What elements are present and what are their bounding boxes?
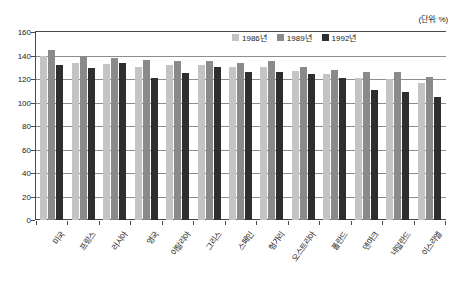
bar-group [351, 32, 382, 220]
bar [103, 64, 110, 220]
bar [300, 67, 307, 220]
bar-group [36, 32, 67, 220]
x-axis-tick-mark [162, 221, 163, 225]
bar [386, 79, 393, 220]
bar [418, 83, 425, 220]
bar [308, 74, 315, 220]
x-axis-tick-label: 이스라엘 [419, 229, 443, 257]
bar [135, 67, 142, 220]
bar [72, 63, 79, 220]
bar [182, 73, 189, 220]
bar [111, 58, 118, 220]
bar [434, 97, 441, 220]
legend-item: 1992년 [322, 32, 357, 43]
x-axis-tick-label: 미국 [49, 229, 66, 246]
bar [198, 65, 205, 220]
bar-group [67, 32, 98, 220]
legend-item: 1989년 [277, 32, 312, 43]
y-axis-tick-label: 20 [22, 192, 31, 201]
y-axis-tick-mark [31, 220, 35, 221]
bar [363, 72, 370, 220]
x-axis-tick-label: 프랑스 [77, 229, 98, 252]
x-axis-tick-mark [225, 221, 226, 225]
x-axis-tick-mark [445, 221, 446, 225]
bar [331, 70, 338, 220]
bars-layer [36, 32, 445, 220]
x-axis-tick-mark [319, 221, 320, 225]
y-axis-tick-label: 80 [22, 122, 31, 131]
bar [426, 77, 433, 220]
y-axis-tick-label: 120 [18, 75, 31, 84]
bar-group [414, 32, 445, 220]
x-axis-tick-label: 오스트리아 [289, 229, 317, 263]
x-axis-tick-label: 영국 [143, 229, 160, 246]
bar-chart: (단위: %) 020406080100120140160 미국프랑스러시아영국… [0, 0, 454, 287]
y-axis-tick-label: 60 [22, 145, 31, 154]
bar-group [193, 32, 224, 220]
bar [323, 74, 330, 220]
bar-group [319, 32, 350, 220]
x-axis-tick-mark [67, 221, 68, 225]
bar [402, 92, 409, 220]
bar [260, 67, 267, 220]
bar [80, 56, 87, 221]
legend-label: 1992년 [332, 32, 357, 43]
x-axis-tick-mark [351, 221, 352, 225]
x-axis-tick-label: 헝가리 [265, 229, 286, 252]
x-axis-tick-mark [414, 221, 415, 225]
bar [292, 71, 299, 220]
bar [206, 61, 213, 220]
x-axis-tick-mark [193, 221, 194, 225]
bar [48, 50, 55, 220]
bar-group [225, 32, 256, 220]
bar [166, 65, 173, 220]
x-axis-tick-label: 스페인 [234, 229, 255, 252]
bar [56, 65, 63, 220]
y-axis-tick-label: 40 [22, 169, 31, 178]
legend-swatch [277, 34, 284, 41]
bar-group [382, 32, 413, 220]
x-axis-tick-mark [130, 221, 131, 225]
x-axis: 미국프랑스러시아영국이탈리아그리스스페인헝가리오스트리아폴란드덴마크네덜란드이스… [36, 221, 445, 287]
bar [174, 61, 181, 220]
x-axis-tick-mark [288, 221, 289, 225]
bar [88, 68, 95, 220]
y-axis-tick-label: 160 [18, 28, 31, 37]
y-axis-tick-label: 100 [18, 98, 31, 107]
x-axis-tick-label: 러시아 [108, 229, 129, 252]
x-axis-tick-mark [256, 221, 257, 225]
bar-group [130, 32, 161, 220]
bar [394, 72, 401, 220]
legend: 1986년1989년1992년 [232, 32, 356, 43]
x-axis-tick-mark [36, 221, 37, 225]
legend-item: 1986년 [232, 32, 267, 43]
x-axis-tick-mark [99, 221, 100, 225]
bar [268, 61, 275, 220]
bar-group [288, 32, 319, 220]
y-axis-tick-label: 140 [18, 51, 31, 60]
bar-group [162, 32, 193, 220]
legend-label: 1989년 [287, 32, 312, 43]
bar [371, 90, 378, 220]
bar [276, 72, 283, 220]
x-axis-tick-label: 폴란드 [328, 229, 349, 252]
y-axis: 020406080100120140160 [0, 31, 35, 221]
bar-group [256, 32, 287, 220]
x-axis-tick-label: 네덜란드 [387, 229, 411, 257]
bar [245, 72, 252, 220]
unit-note: (단위: %) [419, 13, 449, 24]
bar [339, 78, 346, 220]
bar [229, 67, 236, 220]
legend-label: 1986년 [242, 32, 267, 43]
bar [151, 78, 158, 220]
legend-swatch [232, 34, 239, 41]
bar-group [99, 32, 130, 220]
x-axis-tick-label: 그리스 [202, 229, 223, 252]
x-axis-tick-label: 이탈리아 [167, 229, 191, 257]
legend-swatch [322, 34, 329, 41]
bar [355, 78, 362, 220]
bar [237, 63, 244, 220]
x-axis-tick-label: 덴마크 [360, 229, 381, 252]
bar [40, 56, 47, 221]
bar [143, 60, 150, 220]
